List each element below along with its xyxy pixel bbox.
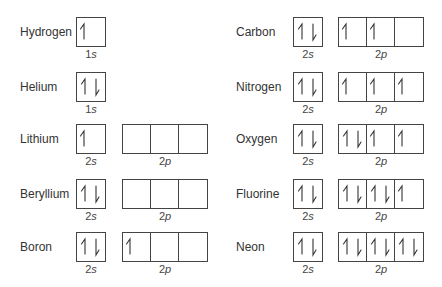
- subshell-letter: p: [165, 210, 171, 222]
- orbital-label-2p: 2p: [338, 155, 424, 167]
- electron-up-arrow-icon: [367, 18, 395, 46]
- electron-up-arrow-icon: [395, 73, 423, 101]
- orbital-cell: [367, 73, 395, 101]
- orbital-cell: [395, 125, 423, 153]
- orbital-cell: [179, 125, 207, 153]
- element-name-neon: Neon: [236, 240, 265, 254]
- orbital-box-2s: [293, 179, 323, 209]
- electron-up-arrow-icon: [77, 125, 105, 153]
- orbital-box-2p: [338, 72, 424, 102]
- electron-pair-arrows-icon: [294, 125, 322, 153]
- electron-pair-arrows-icon: [294, 180, 322, 208]
- element-name-carbon: Carbon: [236, 25, 275, 39]
- orbital-cell: [151, 180, 179, 208]
- orbital-cell: [179, 180, 207, 208]
- orbital-box-2s: [76, 124, 106, 154]
- electron-up-arrow-icon: [395, 180, 423, 208]
- orbital-box-2p: [338, 232, 424, 262]
- orbital-label-2s: 2s: [76, 210, 106, 222]
- orbital-cell: [179, 233, 207, 261]
- electron-up-arrow-icon: [339, 73, 367, 101]
- electron-pair-arrows-icon: [77, 73, 105, 101]
- subshell-letter: s: [308, 210, 314, 222]
- orbital-cell: [339, 180, 367, 208]
- orbital-label-2p: 2p: [122, 263, 208, 275]
- subshell-letter: p: [381, 48, 387, 60]
- orbital-box-2p: [122, 179, 208, 209]
- element-name-beryllium: Beryllium: [20, 187, 69, 201]
- element-name-fluorine: Fluorine: [236, 187, 279, 201]
- element-name-oxygen: Oxygen: [236, 132, 277, 146]
- orbital-box-2s: [293, 17, 323, 47]
- orbital-cell: [77, 233, 105, 261]
- subshell-letter: p: [381, 210, 387, 222]
- orbital-cell: [339, 125, 367, 153]
- orbital-cell: [123, 233, 151, 261]
- orbital-cell: [123, 125, 151, 153]
- orbital-box-2p: [338, 179, 424, 209]
- subshell-letter: s: [91, 103, 97, 115]
- orbital-cell: [367, 180, 395, 208]
- orbital-cell: [151, 233, 179, 261]
- orbital-cell: [395, 180, 423, 208]
- orbital-cell: [294, 180, 322, 208]
- electron-pair-arrows-icon: [395, 233, 423, 261]
- electron-pair-arrows-icon: [294, 233, 322, 261]
- subshell-letter: s: [91, 263, 97, 275]
- orbital-cell: [77, 180, 105, 208]
- orbital-box-2p: [122, 232, 208, 262]
- subshell-letter: p: [381, 103, 387, 115]
- orbital-cell: [367, 125, 395, 153]
- orbital-box-2s: [293, 124, 323, 154]
- electron-up-arrow-icon: [339, 18, 367, 46]
- electron-pair-arrows-icon: [339, 125, 367, 153]
- orbital-cell: [339, 73, 367, 101]
- electron-pair-arrows-icon: [339, 233, 367, 261]
- subshell-letter: p: [165, 155, 171, 167]
- electron-up-arrow-icon: [77, 18, 105, 46]
- electron-up-arrow-icon: [367, 73, 395, 101]
- subshell-letter: s: [91, 48, 97, 60]
- orbital-cell: [367, 233, 395, 261]
- electron-pair-arrows-icon: [294, 18, 322, 46]
- orbital-cell: [151, 125, 179, 153]
- orbital-cell: [339, 233, 367, 261]
- subshell-letter: s: [308, 263, 314, 275]
- orbital-cell: [395, 73, 423, 101]
- orbital-cell: [294, 73, 322, 101]
- orbital-label-2s: 2s: [293, 103, 323, 115]
- orbital-label-2s: 2s: [293, 155, 323, 167]
- orbital-cell: [395, 233, 423, 261]
- orbital-label-1s: 1s: [76, 48, 106, 60]
- orbital-cell: [395, 18, 423, 46]
- orbital-cell: [294, 18, 322, 46]
- orbital-label-2p: 2p: [338, 48, 424, 60]
- orbital-cell: [77, 125, 105, 153]
- orbital-label-2s: 2s: [293, 210, 323, 222]
- subshell-letter: s: [308, 103, 314, 115]
- element-name-hydrogen: Hydrogen: [20, 25, 72, 39]
- orbital-label-2s: 2s: [293, 263, 323, 275]
- element-name-lithium: Lithium: [20, 132, 59, 146]
- orbital-cell: [123, 180, 151, 208]
- element-name-boron: Boron: [20, 240, 52, 254]
- electron-pair-arrows-icon: [339, 180, 367, 208]
- orbital-box-2p: [122, 124, 208, 154]
- subshell-letter: p: [165, 263, 171, 275]
- orbital-box-2p: [338, 124, 424, 154]
- orbital-cell: [77, 73, 105, 101]
- orbital-cell: [294, 125, 322, 153]
- orbital-box-1s: [76, 17, 106, 47]
- orbital-cell: [77, 18, 105, 46]
- electron-pair-arrows-icon: [367, 180, 395, 208]
- electron-pair-arrows-icon: [77, 233, 105, 261]
- orbital-cell: [294, 233, 322, 261]
- subshell-letter: s: [308, 155, 314, 167]
- orbital-label-2p: 2p: [338, 103, 424, 115]
- orbital-label-1s: 1s: [76, 103, 106, 115]
- element-name-nitrogen: Nitrogen: [236, 80, 281, 94]
- orbital-box-2s: [76, 179, 106, 209]
- electron-pair-arrows-icon: [367, 233, 395, 261]
- orbital-box-2p: [338, 17, 424, 47]
- orbital-label-2s: 2s: [293, 48, 323, 60]
